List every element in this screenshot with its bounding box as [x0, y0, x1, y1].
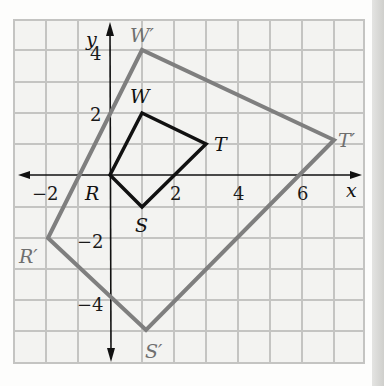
y-axis: [110, 30, 111, 355]
y-tick-neg4: −4: [77, 294, 104, 315]
vertex-label-R: R: [84, 182, 99, 204]
y-tick-2: 2: [90, 104, 101, 125]
vertex-label-T: T: [214, 133, 228, 155]
vertex-label-W-prime: W′: [130, 24, 155, 46]
x-tick-6: 6: [297, 183, 308, 204]
vertex-label-S-prime: S′: [145, 340, 163, 362]
x-tick-2: 2: [170, 183, 181, 204]
vertex-label-R-prime: R′: [18, 245, 38, 267]
vertex-label-S: S: [135, 214, 148, 236]
vertex-label-T-prime: T′: [338, 129, 356, 151]
y-tick-neg2: −2: [77, 231, 104, 252]
vertex-label-W: W: [130, 85, 151, 107]
x-axis-label: x: [346, 179, 357, 201]
coordinate-plane: y x −2 2 4 6 4 2 −2 −4 R W T S R′ W′ T′ …: [0, 0, 384, 386]
x-tick-neg2: −2: [32, 183, 59, 204]
y-tick-4: 4: [90, 43, 101, 64]
x-tick-4: 4: [233, 183, 244, 204]
